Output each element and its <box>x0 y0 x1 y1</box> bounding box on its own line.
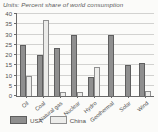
y-axis-tick-label: 5 <box>9 83 12 89</box>
x-axis-tick-label: Solar <box>118 100 132 113</box>
chart-container: Units: Percent share of world consumptio… <box>0 0 158 132</box>
bar-groups <box>17 14 154 96</box>
x-axis-tick-label: Wind <box>136 100 150 113</box>
bar-china <box>145 91 151 96</box>
y-axis-tick-label: 15 <box>5 62 12 68</box>
legend-entry-china: China <box>50 116 86 124</box>
bar-china <box>43 20 49 96</box>
y-axis-tick-label: 35 <box>5 21 12 27</box>
bar-group-coal <box>34 14 51 96</box>
bar-usa <box>54 48 60 96</box>
bar-group-hydro <box>86 14 103 96</box>
bar-usa <box>71 35 77 97</box>
y-axis-tick-label: 40 <box>5 11 12 17</box>
x-axis-tick-label: Coal <box>34 100 47 112</box>
legend-entry-usa: USA <box>10 116 43 124</box>
bar-china <box>60 92 66 96</box>
x-axis-labels: OilCoalNatural gasNuclearHydroGeothermal… <box>16 97 153 117</box>
legend-swatch-china <box>50 116 67 124</box>
bar-group-solar <box>120 14 137 96</box>
y-axis-labels: 0510152025303540 <box>0 14 14 96</box>
bar-group-nuclear <box>68 14 85 96</box>
bar-china <box>94 67 100 96</box>
legend-label-usa: USA <box>30 117 43 124</box>
bar-usa <box>125 65 131 96</box>
bar-group-geothermal <box>103 14 120 96</box>
x-axis-tick-label: Nuclear <box>62 100 81 117</box>
plot-area <box>16 14 154 97</box>
legend-label-china: China <box>70 117 86 124</box>
y-axis-tick-label: 25 <box>5 42 12 48</box>
bar-group-wind <box>137 14 154 96</box>
x-axis-tick-label: Oil <box>20 100 29 109</box>
bar-group-oil <box>17 14 34 96</box>
y-axis-tick-label: 0 <box>9 93 12 99</box>
legend: USA China <box>10 116 86 124</box>
bar-group-natural-gas <box>51 14 68 96</box>
bar-china <box>26 76 32 97</box>
y-axis-tick-label: 30 <box>5 32 12 38</box>
y-axis-tick-label: 10 <box>5 73 12 79</box>
bar-usa <box>108 35 114 97</box>
bar-china <box>77 92 83 96</box>
chart-title: Units: Percent share of world consumptio… <box>3 1 157 8</box>
legend-swatch-usa <box>10 116 27 124</box>
y-axis-tick-label: 20 <box>5 52 12 58</box>
